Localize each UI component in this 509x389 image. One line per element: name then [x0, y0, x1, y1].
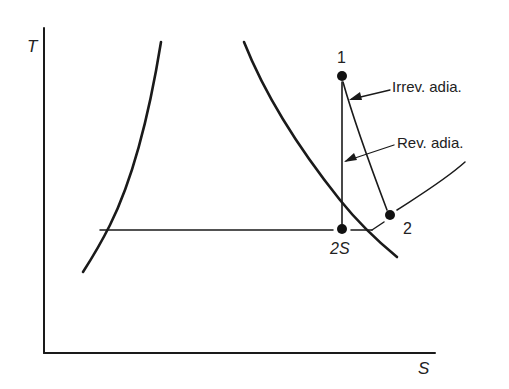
ts-diagram: T S 1 2S 2 Irrev. adia. Rev. adia. — [0, 0, 509, 389]
point-2s-label: 2S — [329, 240, 350, 257]
state-point-2s — [337, 224, 347, 234]
saturated-vapor-curve — [244, 42, 397, 257]
irreversible-adiabatic-line — [343, 82, 387, 210]
irrev-adia-label: Irrev. adia. — [392, 78, 462, 95]
point-1-label: 1 — [337, 49, 346, 66]
superheat-line-a — [372, 222, 384, 230]
rev-adia-label: Rev. adia. — [397, 134, 463, 151]
state-point-1 — [337, 71, 347, 81]
point-2-label: 2 — [403, 220, 412, 237]
rev-arrowhead-icon — [344, 153, 357, 162]
irrev-arrowhead-icon — [349, 92, 362, 100]
state-point-2 — [385, 210, 395, 220]
saturated-liquid-curve — [83, 42, 161, 272]
x-axis-label: S — [418, 359, 430, 378]
y-axis-label: T — [27, 37, 39, 56]
superheat-line-b — [397, 162, 465, 210]
